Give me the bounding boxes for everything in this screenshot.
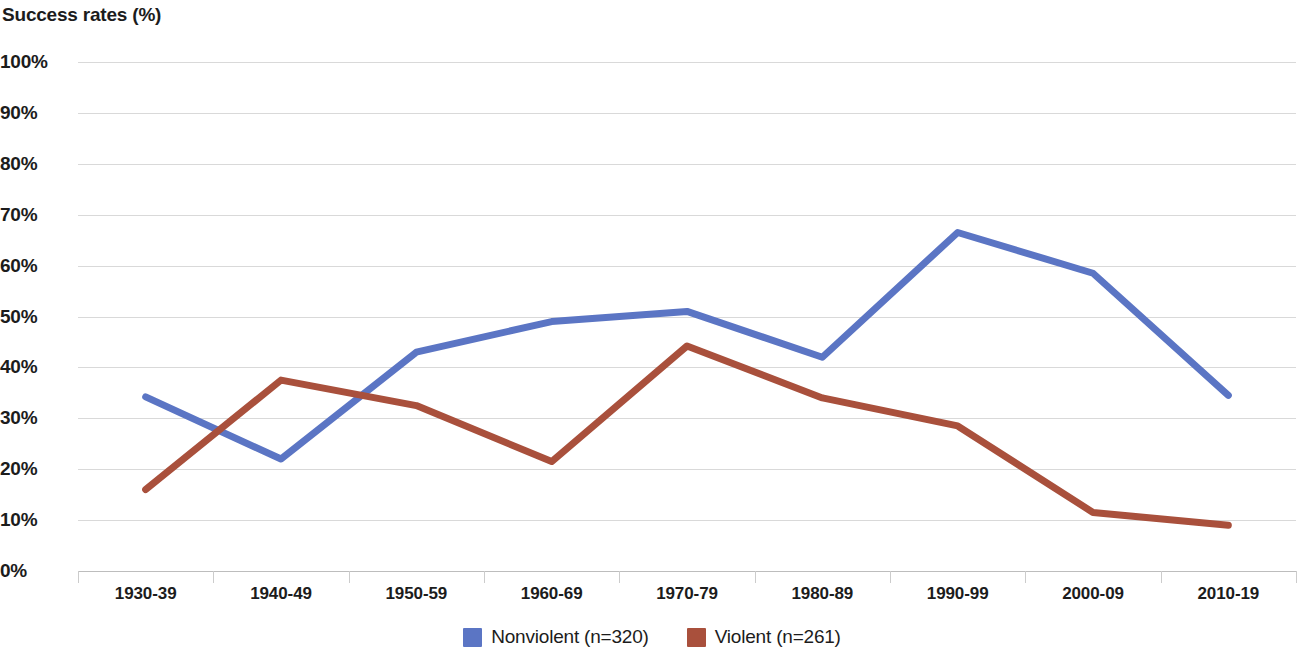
gridline [78, 62, 1296, 63]
y-axis-tick-label: 60% [0, 255, 66, 277]
gridline [78, 215, 1296, 216]
x-axis-tick-label: 1940-49 [250, 584, 312, 604]
y-axis-tick-label: 80% [0, 153, 66, 175]
x-axis-tick [213, 571, 214, 583]
x-axis-tick-label: 1970-79 [656, 584, 718, 604]
chart-legend: Nonviolent (n=320)Violent (n=261) [0, 626, 1304, 648]
gridline [78, 418, 1296, 419]
gridline [78, 266, 1296, 267]
legend-label: Violent (n=261) [715, 626, 841, 648]
y-axis-tick-label: 0% [0, 560, 66, 582]
y-axis-tick-label: 10% [0, 509, 66, 531]
x-axis-tick-label: 1960-69 [521, 584, 583, 604]
x-axis-tick [484, 571, 485, 583]
legend-swatch-icon [687, 628, 706, 647]
x-axis-tick-label: 2000-09 [1062, 584, 1124, 604]
y-axis-tick-label: 30% [0, 407, 66, 429]
y-axis-tick-label: 90% [0, 102, 66, 124]
y-axis-tick-label: 100% [0, 51, 66, 73]
gridline [78, 469, 1296, 470]
x-axis-tick-label: 1980-89 [791, 584, 853, 604]
x-axis-tick-label: 1990-99 [927, 584, 989, 604]
chart-title: Success rates (%) [2, 4, 161, 26]
x-axis-tick [890, 571, 891, 583]
legend-item[interactable]: Nonviolent (n=320) [463, 626, 648, 648]
gridline [78, 317, 1296, 318]
x-axis-tick-label: 1930-39 [115, 584, 177, 604]
x-axis-tick-label: 1950-59 [385, 584, 447, 604]
y-axis-tick-label: 20% [0, 458, 66, 480]
success-rates-line-chart: Success rates (%) 100%90%80%70%60%50%40%… [0, 0, 1304, 666]
gridline [78, 367, 1296, 368]
x-axis-tick [1161, 571, 1162, 583]
x-axis-line [78, 571, 1296, 572]
x-axis-tick [349, 571, 350, 583]
legend-item[interactable]: Violent (n=261) [687, 626, 841, 648]
series-line [146, 346, 1229, 525]
y-axis-tick-label: 40% [0, 356, 66, 378]
series-lines [0, 0, 1304, 666]
y-axis-tick-label: 70% [0, 204, 66, 226]
gridline [78, 164, 1296, 165]
gridline [78, 113, 1296, 114]
legend-swatch-icon [463, 628, 482, 647]
x-axis-tick [78, 571, 79, 583]
gridline [78, 520, 1296, 521]
y-axis-tick-label: 50% [0, 306, 66, 328]
x-axis-tick [1025, 571, 1026, 583]
x-axis-tick [755, 571, 756, 583]
x-axis-tick [1296, 571, 1297, 583]
x-axis-tick [619, 571, 620, 583]
x-axis-tick-label: 2010-19 [1197, 584, 1259, 604]
legend-label: Nonviolent (n=320) [491, 626, 648, 648]
